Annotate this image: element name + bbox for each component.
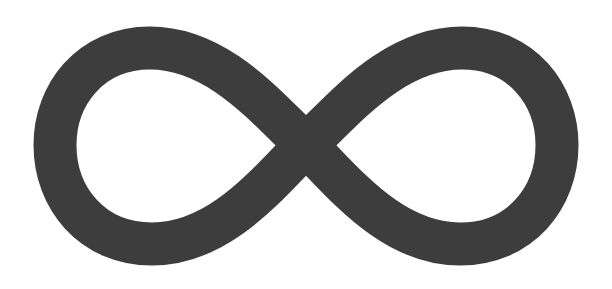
infinity-canvas: Infinity symbol xyxy=(0,0,612,289)
infinity-stroke xyxy=(55,48,557,244)
infinity-icon xyxy=(0,0,612,289)
